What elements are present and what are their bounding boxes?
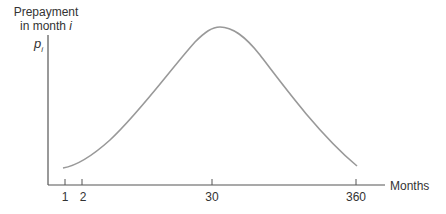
x-tick-label-30: 30 (205, 190, 218, 204)
x-tick-label-2: 2 (80, 190, 87, 204)
prepayment-curve (63, 27, 357, 168)
chart-canvas (0, 0, 446, 214)
x-tick-label-1: 1 (62, 190, 69, 204)
x-axis-label: Months (390, 179, 429, 193)
x-tick-label-360: 360 (346, 190, 366, 204)
